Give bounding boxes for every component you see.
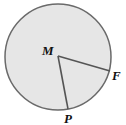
label-point-p: P <box>64 111 73 125</box>
label-point-f: F <box>111 68 121 83</box>
circle-diagram: M F P <box>0 0 126 125</box>
label-center-m: M <box>41 43 54 58</box>
